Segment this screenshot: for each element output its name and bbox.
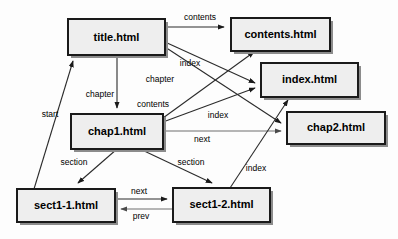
edge-sect12-sect11: prev [121,209,173,221]
edge-sect11-sect12: next [115,186,167,199]
edge-label-index-3: index [246,163,267,173]
node-label-title-html: title.html [94,31,140,43]
edge-label-prev: prev [133,211,150,221]
edge-chap1-sect11: section [61,149,117,183]
edge-chap1-sect12: section [140,149,212,183]
node-chap2-html[interactable]: chap2.html [287,112,388,147]
node-label-contents-html: contents.html [244,28,316,40]
node-label-sect1-2-html: sect1-2.html [189,198,253,210]
node-label-chap1-html: chap1.html [88,125,146,137]
edge-label-section-1: section [61,157,88,167]
link-graph-diagram: contents index chapter chapter contents [0,0,398,239]
edge-label-next-1: next [194,134,211,144]
edge-sect11-title: start [34,61,73,189]
edge-label-chapter-2: chapter [146,74,175,84]
edge-label-next-2: next [131,186,148,196]
edge-label-chapter-1: chapter [86,89,115,99]
edge-label-start: start [42,109,59,119]
node-chap1-html[interactable]: chap1.html [71,114,166,152]
node-label-index-html: index.html [282,73,337,85]
edge-label-contents-1: contents [184,12,216,22]
node-sect1-1-html[interactable]: sect1-1.html [17,189,118,225]
node-label-chap2-html: chap2.html [307,121,365,133]
node-title-html[interactable]: title.html [68,19,168,58]
edge-sect12-index: index [230,100,288,188]
diagram-canvas: contents index chapter chapter contents [0,0,398,239]
node-sect1-2-html[interactable]: sect1-2.html [173,188,273,225]
node-layer: title.html contents.html index.html chap… [17,18,388,225]
edge-title-contents: contents [165,12,224,27]
edge-label-section-2: section [178,157,205,167]
edge-chap1-index: index [163,88,255,122]
node-index-html[interactable]: index.html [261,63,361,100]
edge-title-chap1: chapter [86,55,117,108]
edge-label-index-2: index [208,110,229,120]
node-contents-html[interactable]: contents.html [231,18,333,54]
node-label-sect1-1-html: sect1-1.html [34,199,98,211]
edge-label-contents-2: contents [137,99,169,109]
